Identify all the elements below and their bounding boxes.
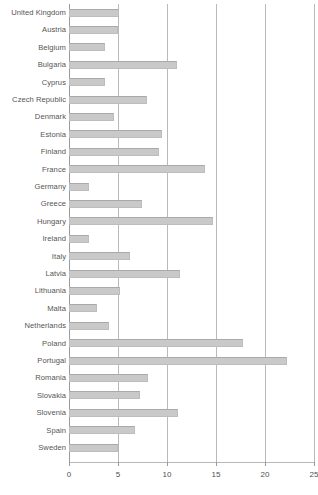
category-label: Denmark [0,108,66,125]
category-label: Estonia [0,126,66,143]
category-label: Portugal [0,352,66,369]
category-label: Finland [0,143,66,160]
x-tick-20 [265,462,266,466]
bar-row: Netherlands [0,317,318,334]
category-label: Germany [0,178,66,195]
bar-row: Hungary [0,213,318,230]
category-label: Malta [0,300,66,317]
bar-row: Slovenia [0,404,318,421]
bar [69,270,180,278]
x-tick-label-10: 10 [162,470,171,479]
x-tick-15 [216,462,217,466]
x-axis-line [69,462,314,463]
x-tick-25 [314,462,315,466]
bar [69,130,162,138]
category-label: Belgium [0,39,66,56]
category-label: Czech Republic [0,91,66,108]
bar [69,96,147,104]
category-label: Romania [0,369,66,386]
category-label: United Kingdom [0,4,66,21]
category-label: Poland [0,335,66,352]
bar-row: Portugal [0,352,318,369]
x-tick-label-0: 0 [67,470,72,479]
bar [69,43,105,51]
bar [69,426,135,434]
bar [69,374,148,382]
bar [69,322,109,330]
bar [69,391,140,399]
x-tick-label-25: 25 [309,470,318,479]
category-label: Spain [0,422,66,439]
category-label: Lithuania [0,282,66,299]
x-tick-label-5: 5 [116,470,121,479]
x-tick-10 [167,462,168,466]
bar-row: Malta [0,300,318,317]
bar [69,26,118,34]
x-tick-label-20: 20 [260,470,269,479]
category-label: Greece [0,195,66,212]
bar-row: Poland [0,335,318,352]
bar-row: Italy [0,248,318,265]
bar-row: Ireland [0,230,318,247]
category-label: Slovakia [0,387,66,404]
bar-chart: United KingdomAustriaBelgiumBulgariaCypr… [0,0,318,495]
bar [69,217,213,225]
category-label: Latvia [0,265,66,282]
bar-row: Finland [0,143,318,160]
category-label: Netherlands [0,317,66,334]
bar [69,304,97,312]
bar-row: France [0,161,318,178]
x-tick-0 [69,462,70,466]
category-label: Ireland [0,230,66,247]
bar-row: Germany [0,178,318,195]
x-tick-5 [118,462,119,466]
bar-row: Spain [0,422,318,439]
bar [69,183,89,191]
bar [69,252,130,260]
category-label: Sweden [0,439,66,456]
bar [69,235,89,243]
bar [69,287,120,295]
bar [69,78,105,86]
bar [69,444,118,452]
bar-row: Estonia [0,126,318,143]
bar-row: Austria [0,21,318,38]
bar-row: Romania [0,369,318,386]
bar-row: Bulgaria [0,56,318,73]
bar-row: Belgium [0,39,318,56]
bar [69,165,205,173]
bar [69,61,177,69]
bar-row: Latvia [0,265,318,282]
category-label: Cyprus [0,74,66,91]
category-label: Bulgaria [0,56,66,73]
bar [69,409,178,417]
bar-row: Denmark [0,108,318,125]
category-label: Slovenia [0,404,66,421]
x-tick-label-15: 15 [211,470,220,479]
bar [69,200,142,208]
bar-row: Greece [0,195,318,212]
bar-row: Lithuania [0,282,318,299]
bar [69,9,119,17]
bar [69,357,287,365]
category-label: France [0,161,66,178]
bar [69,113,114,121]
bar-row: Slovakia [0,387,318,404]
category-label: Austria [0,21,66,38]
category-label: Hungary [0,213,66,230]
bar-row: Sweden [0,439,318,456]
category-label: Italy [0,248,66,265]
bar-row: Cyprus [0,74,318,91]
bar-row: Czech Republic [0,91,318,108]
bar [69,339,243,347]
bar-row: United Kingdom [0,4,318,21]
bar [69,148,159,156]
